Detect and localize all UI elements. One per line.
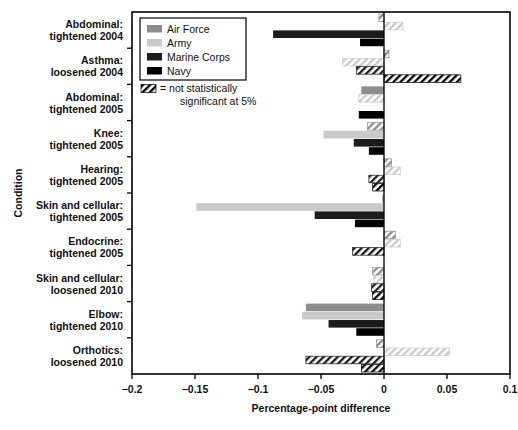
bar-navy-9 — [361, 364, 384, 372]
legend-label-air-force: Air Force — [167, 23, 210, 35]
category-label-4-line2: tightened 2005 — [49, 175, 123, 187]
bar-marine-corps-9 — [306, 356, 384, 364]
bar-marine-corps-8 — [329, 320, 384, 328]
bar-navy-4 — [373, 183, 384, 191]
bar-chart: −0.2−0.15−0.1−0.0500.050.1 Abdominal:tig… — [0, 0, 518, 430]
bar-air-force-8 — [306, 304, 384, 312]
legend-swatch-army — [147, 39, 162, 47]
bar-navy-2 — [359, 111, 384, 119]
bar-air-force-3 — [368, 123, 384, 131]
legend-label-army: Army — [167, 37, 192, 49]
y-axis-category-labels: Abdominal:tightened 2004Asthma:loosened … — [36, 18, 123, 368]
bar-army-2 — [359, 95, 384, 103]
bar-air-force-6 — [384, 231, 395, 239]
chart-canvas: −0.2−0.15−0.1−0.0500.050.1 Abdominal:tig… — [0, 0, 518, 430]
bar-navy-7 — [373, 292, 384, 300]
bar-army-4 — [384, 167, 400, 175]
bar-marine-corps-5 — [315, 211, 384, 219]
bar-air-force-9 — [376, 340, 384, 348]
bar-marine-corps-0 — [273, 30, 384, 38]
bar-marine-corps-1 — [356, 67, 384, 75]
bar-marine-corps-7 — [371, 284, 384, 292]
bar-navy-3 — [369, 147, 384, 155]
x-tick-label-3: −0.05 — [308, 383, 335, 395]
category-label-8-line1: Elbow: — [89, 308, 123, 320]
category-label-9-line1: Orthotics: — [73, 344, 123, 356]
category-label-9-line2: loosened 2010 — [51, 356, 124, 368]
bar-army-7 — [374, 276, 384, 284]
x-tick-label-6: 0.1 — [503, 383, 518, 395]
bar-navy-1 — [384, 75, 461, 83]
bar-marine-corps-3 — [354, 139, 384, 147]
bar-navy-5 — [355, 220, 384, 228]
bar-air-force-7 — [373, 267, 384, 275]
bar-army-5 — [196, 203, 384, 211]
bar-army-3 — [324, 131, 384, 139]
bar-navy-8 — [356, 328, 384, 336]
category-label-5-line2: tightened 2005 — [49, 211, 123, 223]
x-tick-label-5: 0.05 — [437, 383, 458, 395]
category-label-8-line2: tightened 2010 — [49, 320, 123, 332]
legend-label-marine-corps: Marine Corps — [167, 51, 230, 63]
bar-navy-0 — [360, 39, 384, 47]
bar-army-1 — [342, 58, 384, 66]
category-label-7-line1: Skin and cellular: — [36, 272, 123, 284]
bar-marine-corps-4 — [369, 175, 384, 183]
bar-air-force-1 — [384, 50, 389, 58]
category-label-0-line1: Abdominal: — [65, 18, 123, 30]
significance-note: = not statisticallysignificant at 5% — [141, 82, 256, 107]
category-label-4-line1: Hearing: — [80, 163, 123, 175]
bar-army-0 — [384, 22, 403, 30]
legend-label-navy: Navy — [167, 65, 192, 77]
bar-army-8 — [302, 312, 384, 320]
category-label-1-line2: loosened 2004 — [51, 66, 124, 78]
x-axis-tick-labels: −0.2−0.15−0.1−0.0500.050.1 — [122, 383, 518, 395]
category-label-6-line1: Endocrine: — [68, 235, 123, 247]
category-label-1-line1: Asthma: — [81, 54, 123, 66]
x-axis-title: Percentage-point difference — [252, 402, 391, 414]
category-label-3-line2: tightened 2005 — [49, 139, 123, 151]
x-tick-label-4: 0 — [381, 383, 387, 395]
bar-air-force-4 — [384, 159, 392, 167]
category-label-6-line2: tightened 2005 — [49, 247, 123, 259]
category-label-3-line1: Knee: — [94, 127, 123, 139]
bar-army-9 — [384, 348, 450, 356]
category-label-2-line2: tightened 2005 — [49, 103, 123, 115]
x-tick-label-0: −0.2 — [122, 383, 143, 395]
category-label-7-line2: loosened 2010 — [51, 284, 124, 296]
legend-swatch-navy — [147, 67, 162, 75]
x-tick-label-1: −0.15 — [182, 383, 209, 395]
category-label-2-line1: Abdominal: — [65, 91, 123, 103]
hatch-key-icon — [141, 85, 156, 93]
note-line-1: = not statistically — [160, 82, 238, 94]
legend-swatch-marine-corps — [147, 53, 162, 61]
note-line-2: significant at 5% — [180, 95, 256, 107]
category-label-5-line1: Skin and cellular: — [36, 199, 123, 211]
bar-air-force-2 — [361, 86, 384, 94]
x-tick-label-2: −0.1 — [248, 383, 269, 395]
y-axis-title: Condition — [12, 169, 24, 218]
bar-marine-corps-6 — [353, 248, 385, 256]
legend-swatch-air-force — [147, 25, 162, 33]
legend: Air ForceArmyMarine CorpsNavy — [140, 18, 246, 80]
bar-army-6 — [384, 239, 400, 247]
bar-air-force-0 — [379, 14, 384, 22]
category-label-0-line2: tightened 2004 — [49, 30, 123, 42]
